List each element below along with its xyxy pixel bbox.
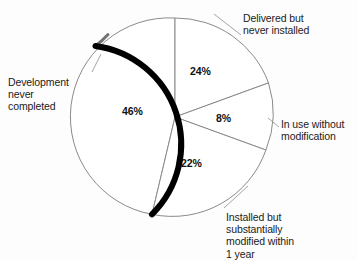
slice-value-installed-but-substantially-modified: 22% bbox=[181, 157, 202, 169]
slice-value-in-use-without-modification: 8% bbox=[216, 112, 231, 124]
slice-label-installed-but-substantially-modified: Installed but substantially modified wit… bbox=[226, 211, 294, 260]
slice-label-in-use-without-modification: In use without modification bbox=[281, 118, 344, 142]
slice-label-development-never-completed: Development never completed bbox=[8, 76, 69, 113]
slice-value-development-never-completed: 46% bbox=[122, 105, 143, 117]
slice-value-delivered-but-never-installed: 24% bbox=[190, 65, 211, 77]
slice-label-delivered-but-never-installed: Delivered but never installed bbox=[243, 12, 309, 36]
